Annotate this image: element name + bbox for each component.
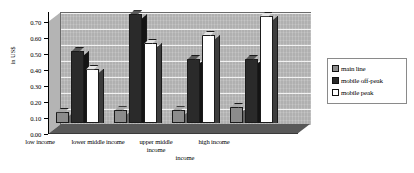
bar-mobile-peak-2 — [144, 43, 157, 123]
legend-label: mobile peak — [341, 89, 373, 97]
legend-label: mobile off-peak — [341, 77, 383, 85]
x-axis-tick-label-line: lower middle income — [71, 138, 124, 146]
x-axis-tick-labels: low incomelower middle incomeupper middl… — [40, 138, 330, 168]
bar-group — [230, 12, 288, 134]
y-axis-tick-label: 0.70 — [30, 19, 41, 26]
bar-main-line-2 — [114, 110, 127, 123]
x-axis-tick-label: low income — [25, 138, 54, 146]
chart-legend: main linemobile off-peakmobile peak — [327, 58, 407, 104]
bar-group — [114, 12, 172, 134]
legend-swatch-icon — [332, 89, 339, 96]
bar-mobile-peak-1 — [86, 69, 99, 123]
bar-group — [172, 12, 230, 134]
bar-face — [187, 59, 200, 123]
bar-main-line-1 — [56, 112, 69, 123]
bar-face — [86, 69, 99, 123]
bar-face — [144, 43, 157, 123]
bar-mobile-peak-4 — [260, 16, 273, 123]
bar-main-line-3 — [172, 110, 185, 123]
y-axis-tick-labels: 0.700.600.500.400.300.200.100.00 — [0, 0, 48, 134]
bar-main-line-4 — [230, 107, 243, 123]
x-axis-tick-label: lower middle income — [71, 138, 124, 146]
legend-label: main line — [341, 65, 365, 73]
legend-item[interactable]: mobile peak — [332, 87, 402, 98]
y-axis-tick-label: 0.10 — [30, 115, 41, 122]
x-axis-tick-label: upper middleincome — [139, 138, 172, 154]
legend-swatch-icon — [332, 77, 339, 84]
legend-item[interactable]: main line — [332, 63, 402, 74]
y-axis-title: in US$ — [9, 36, 16, 76]
bar-mobile-off-peak-1 — [71, 51, 84, 123]
bar-group — [56, 12, 114, 134]
legend-swatch-icon — [332, 65, 339, 72]
bar-face — [71, 51, 84, 123]
x-axis-tick-label-line: high income — [198, 138, 229, 146]
x-axis-tick-label-line: low income — [25, 138, 54, 146]
bar-mobile-off-peak-2 — [129, 14, 142, 123]
y-axis-tick-label: 0.50 — [30, 51, 41, 58]
bar-face — [202, 35, 215, 123]
legend-item[interactable]: mobile off-peak — [332, 75, 402, 86]
bars-layer — [48, 12, 310, 134]
bar-face — [230, 107, 243, 123]
bar-face — [260, 16, 273, 123]
y-axis-tick-label: 0.20 — [30, 99, 41, 106]
bar-face — [172, 110, 185, 123]
y-axis-tick-label: 0.30 — [30, 83, 41, 90]
y-axis-tick-label: 0.40 — [30, 67, 41, 74]
x-axis-tick-label: high income — [198, 138, 229, 146]
bar-face — [114, 110, 127, 123]
x-axis-tick-label-line: income — [139, 146, 172, 154]
bar-face — [56, 112, 69, 123]
x-axis-tick-label-line: upper middle — [139, 138, 172, 146]
x-axis-title: income — [40, 154, 330, 161]
bar-chart: 0.700.600.500.400.300.200.100.00 in US$ … — [0, 0, 414, 173]
bar-face — [245, 59, 258, 123]
y-axis-tick-mark — [44, 134, 48, 135]
y-axis-tick-label: 0.60 — [30, 35, 41, 42]
bar-face — [129, 14, 142, 123]
y-axis-tick-label: 0.00 — [30, 131, 41, 138]
bar-mobile-peak-3 — [202, 35, 215, 123]
bar-mobile-off-peak-3 — [187, 59, 200, 123]
bar-mobile-off-peak-4 — [245, 59, 258, 123]
